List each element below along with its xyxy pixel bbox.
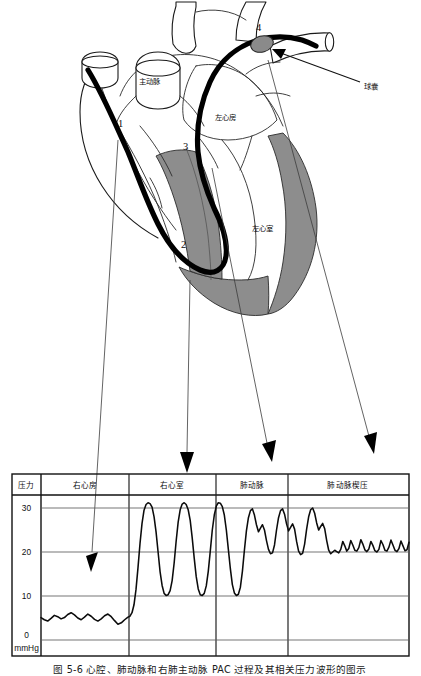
- figure-container: 1 2 3 4 主动脉 左心房 左心室 球囊: [0, 0, 421, 676]
- figure-caption: 图 5-6 心腔、肺动脉和右肺主动脉 PAC 过程及其相关压力波形的图示: [53, 664, 366, 675]
- caption-layer: 图 5-6 心腔、肺动脉和右肺主动脉 PAC 过程及其相关压力波形的图示: [0, 0, 421, 676]
